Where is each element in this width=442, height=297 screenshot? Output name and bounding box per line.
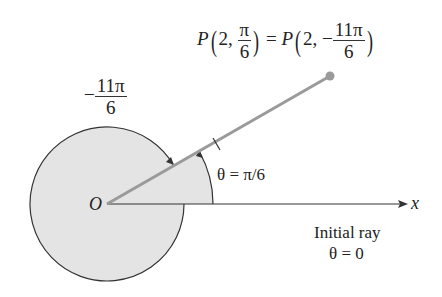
point-p (326, 72, 335, 81)
origin-label: O (89, 194, 102, 215)
neg-sign: − (84, 84, 95, 105)
equals-sign: = (266, 28, 277, 49)
alt-theta-fraction: 11π6 (333, 20, 365, 61)
neg-num: 11π (95, 76, 127, 97)
theta-num: π (238, 20, 252, 41)
point-r: 2 (219, 28, 229, 49)
initial-ray-theta: θ = 0 (329, 244, 364, 264)
theta-label: θ = π/6 (217, 165, 265, 185)
alt-theta-num: 11π (333, 20, 365, 41)
point-name-alt: P (281, 28, 293, 49)
alt-r: 2 (303, 28, 313, 49)
theta-den: 6 (240, 41, 250, 61)
x-axis-label: x (411, 193, 419, 214)
point-name: P (197, 28, 209, 49)
alt-sign: − (322, 28, 333, 49)
neg-den: 6 (106, 97, 116, 117)
negative-angle-label: −11π6 (84, 76, 127, 117)
point-label: P(2, π6) = P(2, −11π6) (197, 20, 375, 61)
theta-fraction: π6 (238, 20, 252, 61)
alt-theta-den: 6 (344, 41, 354, 61)
initial-ray-label: Initial ray (314, 223, 381, 243)
neg-fraction: 11π6 (95, 76, 127, 117)
